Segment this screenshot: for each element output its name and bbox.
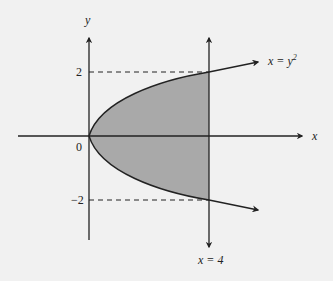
origin-label: 0: [76, 140, 82, 154]
x-axis-label: x: [311, 129, 318, 143]
parabola-label: x = y2: [267, 53, 297, 68]
y-tick-neg2: −2: [71, 193, 84, 207]
diagram: y x 0 2 −2 x = y2 x = 4: [0, 0, 333, 281]
diagram-svg: y x 0 2 −2 x = y2 x = 4: [0, 0, 333, 281]
vertical-line-label: x = 4: [197, 253, 223, 267]
y-tick-2: 2: [76, 65, 82, 79]
y-axis-label: y: [84, 13, 91, 27]
